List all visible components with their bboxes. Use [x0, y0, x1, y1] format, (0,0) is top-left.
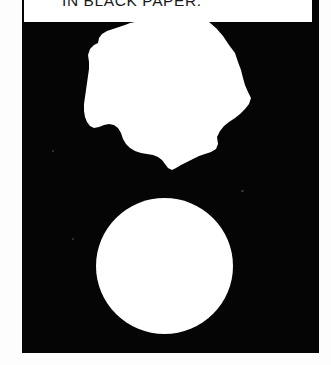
- white-circle: [96, 198, 233, 334]
- comic-panel-artwork: IN BLACK PAPER.: [22, 0, 319, 353]
- page-gutter-right: [319, 0, 331, 365]
- scan-speckle: [241, 190, 244, 192]
- caption-text: IN BLACK PAPER.: [62, 0, 202, 12]
- page-gutter-left: [0, 0, 22, 365]
- comic-panel-page: IN BLACK PAPER.: [0, 0, 331, 365]
- page-gutter-bottom: [0, 353, 331, 365]
- torn-paper-blob: [77, 18, 257, 173]
- scan-speckle: [52, 150, 54, 152]
- scan-speckle: [72, 238, 74, 240]
